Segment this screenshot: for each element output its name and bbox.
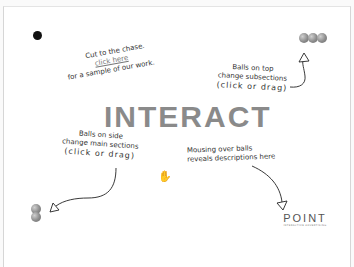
section-ball-2[interactable] — [31, 212, 41, 222]
page-title: INTERACT — [104, 100, 272, 134]
subsection-ball-3[interactable] — [317, 33, 327, 43]
logo-name: POINT — [278, 213, 332, 224]
arrow-to-side-balls-icon — [48, 168, 128, 218]
home-dot[interactable] — [33, 31, 42, 40]
point-logo[interactable]: POINT INTERACTIVE ADVERTISING — [278, 213, 332, 228]
logo-tagline: INTERACTIVE ADVERTISING — [278, 224, 332, 228]
top-balls-note: Balls on top change subsections (click o… — [216, 62, 288, 93]
hover-note: Mousing over balls reveals descriptions … — [187, 143, 276, 164]
arrow-to-logo-icon — [252, 166, 302, 216]
hand-cursor-icon: ✋ — [158, 171, 172, 182]
arrow-to-top-balls-icon — [290, 50, 330, 100]
side-balls-note: Balls on side change main sections (clic… — [61, 128, 139, 160]
